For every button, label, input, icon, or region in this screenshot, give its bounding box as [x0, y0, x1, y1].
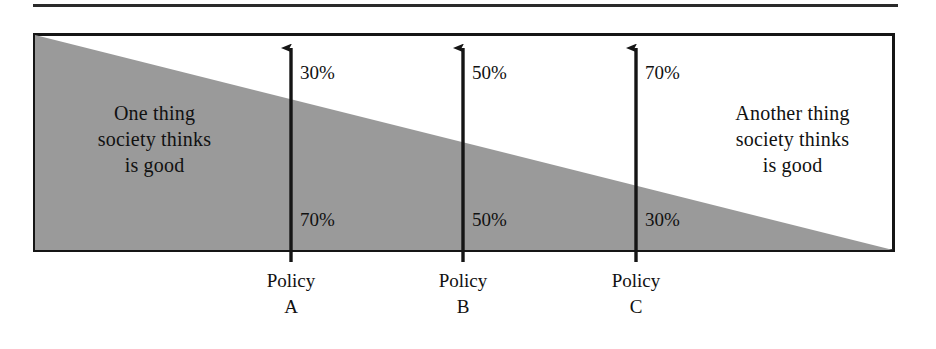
left-region-label-line-1: One thing: [62, 100, 247, 126]
policy-c-caption: Policy C: [576, 268, 696, 320]
right-region-label-line-3: is good: [700, 152, 885, 178]
policy-a-caption-line-1: Policy: [231, 268, 351, 294]
policy-a-top-percent: 30%: [300, 62, 335, 84]
policy-c-caption-line-2: C: [576, 294, 696, 320]
left-region-label-line-3: is good: [62, 152, 247, 178]
left-region-label-line-2: society thinks: [62, 126, 247, 152]
policy-b-bottom-percent: 50%: [472, 209, 507, 231]
policy-a-caption: Policy A: [231, 268, 351, 320]
policy-b-caption-line-1: Policy: [403, 268, 523, 294]
policy-c-top-percent: 70%: [645, 62, 680, 84]
policy-b-caption: Policy B: [403, 268, 523, 320]
policy-c-bottom-percent: 30%: [645, 209, 680, 231]
figure-root: One thing society thinks is good Another…: [0, 0, 936, 349]
left-region-label: One thing society thinks is good: [62, 100, 247, 178]
policy-b-caption-line-2: B: [403, 294, 523, 320]
right-region-label-line-2: society thinks: [700, 126, 885, 152]
policy-b-top-percent: 50%: [472, 62, 507, 84]
policy-c-caption-line-1: Policy: [576, 268, 696, 294]
top-horizontal-rule: [33, 4, 898, 7]
right-region-label: Another thing society thinks is good: [700, 100, 885, 178]
policy-a-caption-line-2: A: [231, 294, 351, 320]
policy-a-bottom-percent: 70%: [300, 209, 335, 231]
right-region-label-line-1: Another thing: [700, 100, 885, 126]
